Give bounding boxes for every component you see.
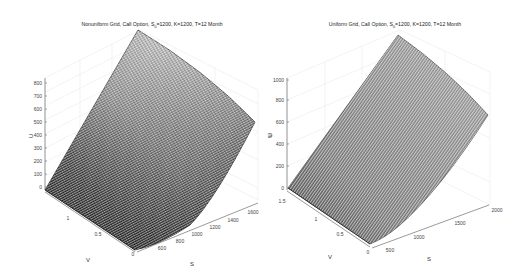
svg-text:800: 800 (34, 80, 43, 86)
left-v-label: V (86, 257, 90, 263)
svg-text:0.5: 0.5 (95, 231, 102, 237)
svg-text:700: 700 (34, 93, 43, 99)
svg-text:800: 800 (176, 238, 185, 244)
right-surface-plot: Uniform Grid, Call Option, S0=1200, K=12… (267, 21, 503, 262)
svg-text:200: 200 (34, 158, 43, 164)
right-u-label: U (267, 133, 273, 137)
svg-text:0.5: 0.5 (337, 231, 344, 237)
svg-text:600: 600 (34, 106, 43, 112)
svg-text:0: 0 (281, 185, 284, 191)
right-s-label: S (427, 256, 431, 262)
svg-text:800: 800 (276, 97, 285, 103)
svg-text:1.5: 1.5 (279, 198, 286, 204)
svg-text:400: 400 (34, 132, 43, 138)
svg-text:300: 300 (34, 145, 43, 151)
svg-text:1500: 1500 (454, 220, 465, 226)
left-u-axis: 0 100 200 300 400 500 600 700 800 U (28, 78, 47, 190)
right-u-axis: 0 200 400 600 800 1000 U (267, 77, 289, 191)
svg-text:1600: 1600 (247, 209, 258, 215)
left-u-label: U (28, 134, 34, 138)
right-v-label: V (328, 254, 332, 260)
svg-text:0: 0 (39, 184, 42, 190)
svg-text:600: 600 (276, 119, 285, 125)
svg-text:1: 1 (67, 215, 70, 221)
svg-text:0: 0 (367, 249, 370, 255)
svg-text:1000: 1000 (413, 234, 424, 240)
left-surface-plot: Nonuniform Grid, Call Option, S0=1200, K… (28, 21, 273, 267)
svg-text:1: 1 (315, 216, 318, 222)
svg-text:1400: 1400 (227, 217, 238, 223)
left-plot-title: Nonuniform Grid, Call Option, S0=1200, K… (81, 21, 222, 29)
svg-text:200: 200 (276, 163, 285, 169)
svg-text:1200: 1200 (209, 224, 220, 230)
svg-text:1000: 1000 (273, 77, 284, 83)
svg-text:0: 0 (132, 251, 135, 257)
svg-text:100: 100 (34, 171, 43, 177)
right-plot-title: Uniform Grid, Call Option, S0=1200, K=12… (329, 21, 462, 29)
svg-text:1000: 1000 (191, 231, 202, 237)
svg-text:500: 500 (386, 247, 395, 253)
svg-text:600: 600 (158, 245, 167, 251)
svg-text:400: 400 (276, 141, 285, 147)
svg-text:2000: 2000 (491, 207, 502, 213)
left-s-label: S (190, 261, 194, 267)
svg-text:500: 500 (34, 119, 43, 125)
figure-canvas: Nonuniform Grid, Call Option, S0=1200, K… (0, 0, 529, 278)
